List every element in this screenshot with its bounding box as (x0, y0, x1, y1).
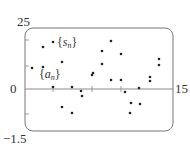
data-point (149, 80, 152, 83)
y-zero-label: 0 (10, 81, 17, 96)
data-point (81, 95, 84, 98)
data-point (138, 87, 141, 90)
data-point (80, 90, 83, 93)
y-top-label: 25 (17, 14, 30, 29)
data-point (42, 46, 45, 49)
data-point (110, 40, 113, 43)
data-point (52, 41, 55, 44)
data-point (42, 66, 45, 69)
data-point (124, 91, 127, 94)
data-point (158, 64, 161, 67)
data-point (139, 103, 142, 106)
data-point (120, 53, 123, 56)
data-point (149, 76, 152, 79)
data-point (92, 72, 95, 75)
brace-close: } (55, 67, 61, 81)
scatter-chart: 25 0 −1.5 15 {sn} {an} (0, 0, 190, 148)
x-right-label: 15 (175, 81, 188, 96)
series-label-a: {an} (39, 67, 61, 82)
data-point (61, 61, 64, 64)
data-point (120, 79, 123, 82)
data-point (129, 112, 132, 115)
data-point (101, 63, 104, 66)
y-bottom-label: −1.5 (3, 131, 27, 146)
data-point (61, 106, 64, 109)
data-point (101, 50, 104, 53)
data-point (158, 58, 161, 61)
data-point (71, 86, 74, 89)
data-point (31, 67, 34, 70)
data-point (52, 86, 55, 89)
data-point (71, 112, 74, 115)
data-point (110, 79, 113, 82)
series-label-s: {sn} (57, 35, 77, 50)
data-point (130, 102, 133, 105)
brace-close: } (71, 35, 77, 49)
